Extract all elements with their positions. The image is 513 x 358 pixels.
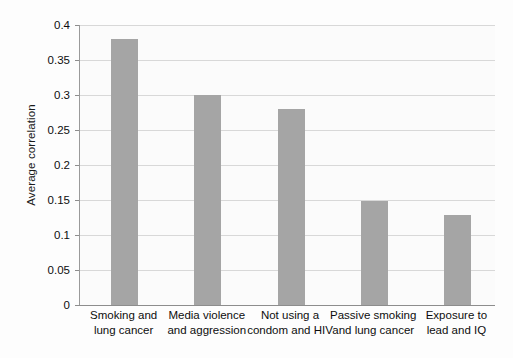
bar bbox=[278, 109, 305, 305]
y-axis-title: Average correlation bbox=[18, 0, 44, 310]
bar-chart-figure: Average correlation 00.050.10.150.20.250… bbox=[0, 0, 513, 358]
x-tick-label: Exposure tolead and IQ bbox=[404, 308, 508, 337]
gridline bbox=[80, 95, 495, 96]
plot-area bbox=[79, 25, 495, 305]
bar bbox=[361, 201, 388, 305]
x-tick-label-line-1: Passive smoking bbox=[330, 309, 416, 321]
x-tick-label-line-1: Not using a bbox=[261, 309, 319, 321]
x-axis-tick-labels: Smoking andlung cancerMedia violenceand … bbox=[79, 308, 495, 356]
x-tick-label-line-2: lead and IQ bbox=[404, 323, 508, 338]
bar bbox=[194, 95, 221, 305]
x-axis-line bbox=[79, 305, 495, 306]
gridline bbox=[80, 25, 495, 26]
bar bbox=[111, 39, 138, 305]
bar bbox=[444, 215, 471, 305]
x-tick-label-line-1: Exposure to bbox=[426, 309, 487, 321]
x-tick-label-line-1: Smoking and bbox=[90, 309, 157, 321]
x-tick-label-line-1: Media violence bbox=[168, 309, 245, 321]
gridline bbox=[80, 60, 495, 61]
y-axis-title-text: Average correlation bbox=[25, 104, 37, 205]
